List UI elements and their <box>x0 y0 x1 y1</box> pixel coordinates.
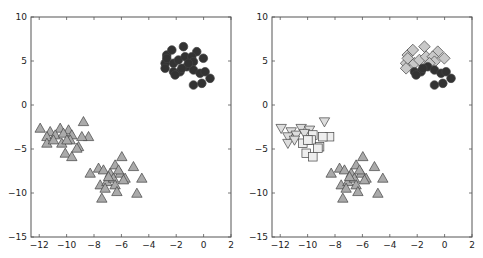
circle-marker <box>447 74 456 83</box>
x-tick-label: −4 <box>142 240 156 250</box>
triangle-up-marker <box>137 173 147 182</box>
triangle-up-marker <box>60 148 70 157</box>
circle-marker <box>199 54 208 63</box>
x-tick-label: 2 <box>469 240 475 250</box>
triangle-down-marker <box>319 118 329 127</box>
data-points <box>276 41 455 202</box>
triangle-up-marker <box>97 193 107 202</box>
circle-marker <box>184 59 193 68</box>
triangle-up-marker <box>117 152 127 161</box>
y-tick-label: −5 <box>255 144 268 154</box>
circle-marker <box>412 71 421 80</box>
y-tick-label: −5 <box>14 144 27 154</box>
x-tick-label: 2 <box>228 240 234 250</box>
y-tick-label: −10 <box>8 188 27 198</box>
triangle-up-marker <box>378 173 388 182</box>
right-scatter-panel: −12−10−8−6−4−2021050−5−10−15 <box>249 12 475 250</box>
data-points <box>35 42 214 202</box>
circle-marker <box>419 64 428 73</box>
circle-marker <box>179 42 188 51</box>
y-tick-label: 0 <box>262 100 268 110</box>
x-tick-label: 0 <box>442 240 448 250</box>
x-tick-label: −10 <box>298 240 317 250</box>
circle-marker <box>430 81 439 90</box>
triangle-up-marker <box>338 193 348 202</box>
series-cluster-triangles-bottom <box>85 152 147 203</box>
triangle-up-marker <box>77 131 87 140</box>
y-tick-label: −15 <box>8 232 27 242</box>
series-cluster-circles <box>161 42 215 89</box>
y-tick-label: 0 <box>21 100 27 110</box>
x-tick-label: −4 <box>383 240 397 250</box>
triangle-up-marker <box>78 117 88 126</box>
triangle-up-marker <box>358 152 368 161</box>
circle-marker <box>162 54 171 63</box>
x-tick-label: −6 <box>356 240 370 250</box>
y-tick-label: 5 <box>21 56 27 66</box>
diamond-marker <box>419 41 431 53</box>
x-tick-label: 0 <box>201 240 207 250</box>
circle-marker <box>439 79 448 88</box>
x-tick-label: −8 <box>328 240 342 250</box>
triangle-up-marker <box>326 168 336 177</box>
triangle-up-marker <box>35 123 45 132</box>
circle-marker <box>198 79 207 88</box>
left-scatter-panel: −12−10−8−6−4−2021050−5−10−15 <box>8 12 234 250</box>
circle-marker <box>168 46 177 55</box>
y-tick-label: −15 <box>249 232 268 242</box>
square-marker <box>319 132 328 141</box>
triangle-down-marker <box>276 124 286 133</box>
scatter-figure: −12−10−8−6−4−2021050−5−10−15 −12−10−8−6−… <box>0 0 483 258</box>
triangle-up-marker <box>128 161 138 170</box>
square-marker <box>314 144 323 153</box>
square-marker <box>309 152 318 161</box>
x-tick-label: −10 <box>57 240 76 250</box>
triangle-up-marker <box>85 168 95 177</box>
circle-marker <box>161 64 170 73</box>
x-tick-label: −12 <box>271 240 290 250</box>
x-tick-label: −8 <box>87 240 101 250</box>
series-triangles-up <box>326 152 388 203</box>
circle-marker <box>171 71 180 80</box>
triangle-up-marker <box>373 188 383 197</box>
circle-marker <box>189 81 198 90</box>
square-marker <box>304 136 313 145</box>
x-tick-label: −6 <box>115 240 129 250</box>
circle-marker <box>206 74 215 83</box>
triangle-up-marker <box>369 161 379 170</box>
x-tick-label: −12 <box>30 240 49 250</box>
y-tick-label: 10 <box>16 12 28 22</box>
y-tick-label: 10 <box>257 12 269 22</box>
triangle-up-marker <box>132 188 142 197</box>
series-cluster-triangles-left <box>35 117 94 161</box>
x-tick-label: −2 <box>411 240 424 250</box>
y-tick-label: 5 <box>262 56 268 66</box>
y-tick-label: −10 <box>249 188 268 198</box>
x-tick-label: −2 <box>170 240 183 250</box>
